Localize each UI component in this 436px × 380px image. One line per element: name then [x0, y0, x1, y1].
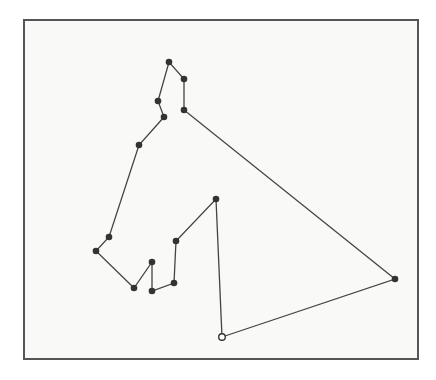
tour-diagram	[0, 0, 436, 380]
tour-node	[181, 76, 188, 83]
tour-node	[181, 107, 188, 114]
tour-node	[392, 276, 399, 283]
tour-node	[166, 59, 173, 66]
tour-nodes	[93, 59, 399, 341]
tour-node	[136, 142, 143, 149]
start-node	[219, 334, 226, 341]
tour-node	[93, 248, 100, 255]
tour-node	[161, 114, 168, 121]
tour-path	[96, 62, 395, 337]
tour-node	[149, 288, 156, 295]
tour-node	[106, 234, 113, 241]
tour-node	[171, 280, 178, 287]
tour-node	[155, 98, 162, 105]
tour-node	[173, 238, 180, 245]
tour-node	[149, 259, 156, 266]
tour-node	[131, 285, 138, 292]
tour-node	[213, 196, 220, 203]
